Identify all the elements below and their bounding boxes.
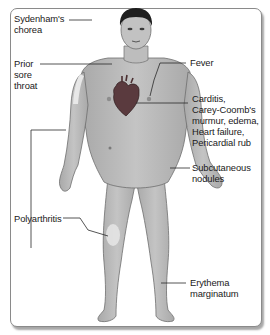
legs bbox=[98, 178, 174, 322]
chest-detail bbox=[147, 97, 151, 101]
label-prior-sore-throat: Prior sore throat bbox=[14, 58, 37, 91]
label-polyarthritis: Polyarthritis bbox=[14, 213, 62, 224]
knee-highlight bbox=[106, 224, 120, 246]
navel bbox=[109, 147, 112, 150]
eye bbox=[128, 28, 133, 31]
eye bbox=[140, 28, 145, 31]
label-erythema-marginatum: Erythema marginatum bbox=[190, 277, 239, 299]
label-fever: Fever bbox=[190, 57, 213, 68]
right-arm bbox=[59, 72, 88, 191]
label-carditis: Carditis, Carey-Coomb's murmur, edema, H… bbox=[192, 93, 259, 148]
label-subcutaneous-nodules: Subcutaneous nodules bbox=[192, 162, 251, 184]
torso bbox=[81, 58, 191, 188]
chest-detail bbox=[107, 97, 111, 101]
leader-polyarthritis-knee bbox=[63, 218, 108, 236]
leader-polyarthritis-arm bbox=[31, 130, 66, 248]
label-sydenhams-chorea: Sydenham's chorea bbox=[14, 13, 64, 35]
